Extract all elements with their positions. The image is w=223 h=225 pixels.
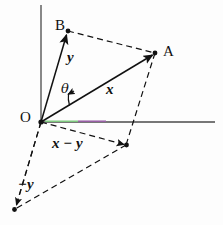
dashed-edge-b-to-a bbox=[68, 31, 155, 53]
label-vector-x: x bbox=[106, 82, 114, 97]
point-a-dot bbox=[153, 51, 158, 56]
label-point-b: B bbox=[55, 18, 65, 33]
label-vector-x-minus-y: x − y bbox=[52, 136, 83, 151]
vector-minus-y-arrow bbox=[17, 122, 42, 205]
point-b-dot bbox=[66, 29, 71, 34]
dashed-edge-a-to-xminusy bbox=[126, 53, 155, 145]
vector-diagram-figure: A B O x y θ x − y −y bbox=[0, 0, 223, 225]
label-vector-y: y bbox=[67, 50, 74, 65]
label-vector-minus-y: −y bbox=[18, 177, 34, 192]
origin-dot bbox=[38, 119, 43, 124]
label-angle-theta: θ bbox=[61, 82, 69, 95]
point-minus-y-dot bbox=[12, 207, 17, 212]
label-origin: O bbox=[20, 110, 31, 125]
label-point-a: A bbox=[163, 44, 174, 59]
theta-arc-arrowhead bbox=[68, 91, 74, 94]
point-x-minus-y-dot bbox=[124, 143, 129, 148]
